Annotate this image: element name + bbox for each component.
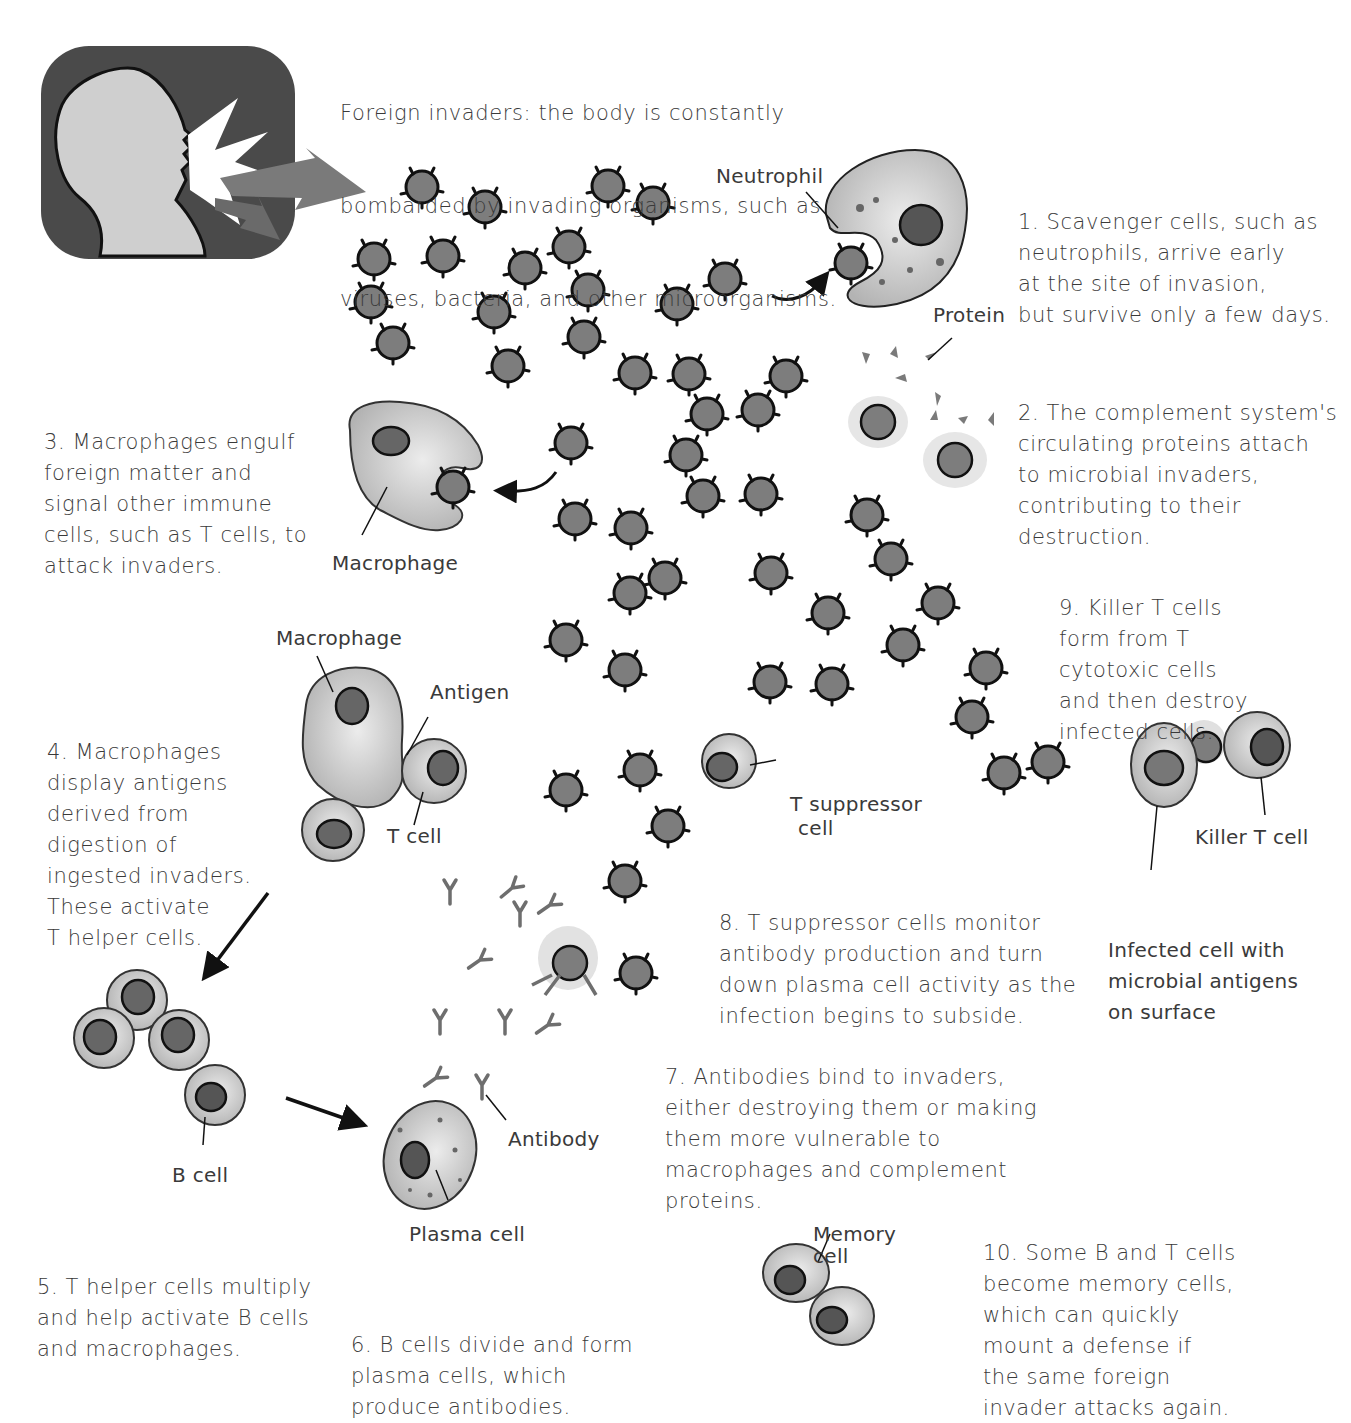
label-macrophage-1: Macrophage [332, 551, 458, 575]
label-protein: Protein [933, 303, 1005, 327]
step-1-text: 1. Scavenger cells, such asneutrophils, … [1018, 145, 1331, 362]
complement-illustration [848, 338, 994, 488]
step-4-text: 4. Macrophagesdisplay antigensderived fr… [47, 675, 252, 985]
label-plasma-cell: Plasma cell [409, 1222, 525, 1246]
intro-text: Foreign invaders: the body is constantly… [340, 36, 837, 346]
label-infected-cell: Infected cell withmicrobial antigenson s… [1108, 873, 1298, 1059]
step-9-text: 9. Killer T cellsform from Tcytotoxic ce… [1059, 531, 1248, 779]
label-neutrophil: Neutrophil [716, 164, 823, 188]
label-antigen: Antigen [430, 680, 510, 704]
label-killer-t-cell: Killer T cell [1195, 825, 1309, 849]
t-suppressor-illustration [702, 734, 776, 788]
plasma-cell-illustration [369, 1088, 506, 1222]
label-memory-cell: Memorycell [813, 1179, 896, 1289]
label-b-cell: B cell [172, 1163, 228, 1187]
antibodies-illustration [421, 877, 598, 1099]
label-t-suppressor: T suppressorcell [790, 744, 922, 864]
step-8-text: 8. T suppressor cells monitorantibody pr… [719, 846, 1076, 1063]
step-3-text: 3. Macrophages engulfforeign matter ands… [44, 365, 307, 613]
label-antibody: Antibody [508, 1127, 600, 1151]
label-macrophage-2: Macrophage [276, 626, 402, 650]
step-5-text: 5. T helper cells multiplyand help activ… [37, 1210, 311, 1396]
macrophage-engulf-illustration [349, 402, 556, 535]
step-6-text: 6. B cells divide and formplasma cells, … [351, 1268, 633, 1423]
label-t-cell: T cell [387, 824, 442, 848]
sneeze-illustration [41, 46, 366, 259]
step-10-text: 10. Some B and T cellsbecome memory cell… [983, 1176, 1236, 1423]
